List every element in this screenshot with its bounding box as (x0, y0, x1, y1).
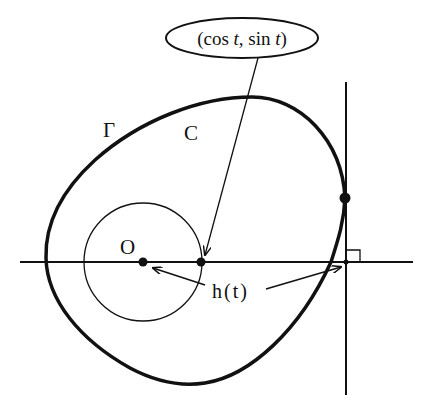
c-label: C (184, 121, 198, 145)
foot-point (344, 260, 349, 265)
unit-vector-point (197, 258, 206, 267)
point-label-arrow (205, 58, 258, 255)
support-function-diagram: (cos t, sin t) Γ C O h(t) (0, 0, 423, 403)
gamma-label: Γ (103, 118, 115, 142)
h-arrow-left (153, 268, 205, 285)
h-of-t-label: h(t) (212, 280, 249, 303)
h-arrow-right (266, 267, 341, 289)
tangent-point (340, 193, 351, 204)
origin-label: O (120, 235, 135, 259)
origin-point (139, 258, 148, 267)
point-label: (cos t, sin t) (197, 28, 287, 50)
right-angle-marker (347, 250, 360, 262)
